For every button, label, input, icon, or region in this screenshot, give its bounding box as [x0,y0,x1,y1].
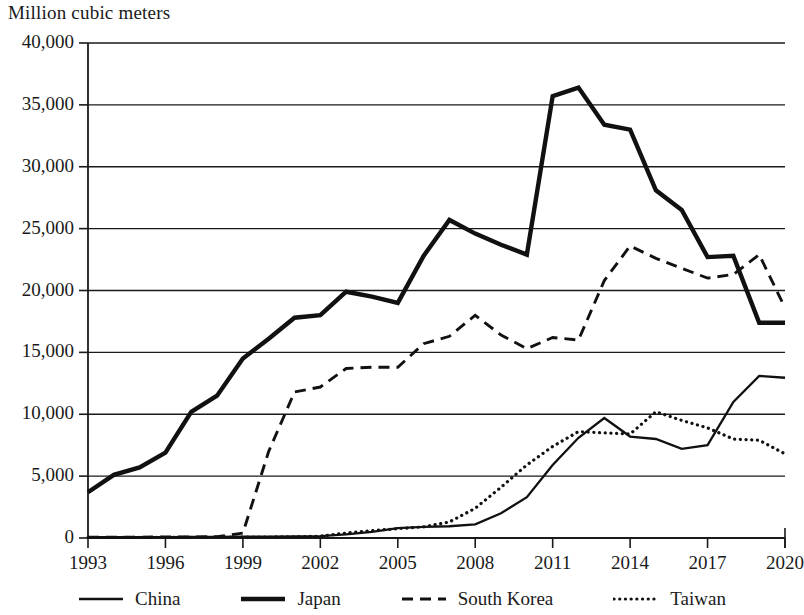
x-tick-label: 2017 [668,552,748,574]
chart-figure: Million cubic meters 40,00035,00030,0002… [0,0,804,615]
y-tick-label: 20,000 [22,279,74,301]
legend-label: China [135,588,180,610]
y-tick-label: 15,000 [22,340,74,362]
y-axis-ticks [79,43,88,538]
x-tick-label: 2011 [513,552,593,574]
data-series [88,88,785,538]
series-line-china [88,376,785,537]
y-tick-label: 0 [65,526,75,548]
series-line-south-korea [88,246,785,537]
y-tick-label: 40,000 [22,31,74,53]
y-tick-label: 35,000 [22,93,74,115]
gridlines [88,43,785,538]
series-line-taiwan [88,412,785,538]
legend-label: Taiwan [670,588,726,610]
legend-label: South Korea [458,588,554,610]
y-tick-label: 10,000 [22,402,74,424]
legend-label: Japan [297,588,340,610]
legend-swatch-solid-thick-icon [240,592,286,606]
legend-swatch-dashed-icon [401,592,447,606]
chart-legend: ChinaJapanSouth KoreaTaiwan [0,584,804,614]
legend-swatch-dotted-icon [613,592,659,606]
y-tick-label: 5,000 [31,464,74,486]
x-tick-label: 2002 [280,552,360,574]
y-tick-label: 30,000 [22,155,74,177]
legend-swatch-solid-thin-icon [78,592,124,606]
y-tick-label: 25,000 [22,217,74,239]
x-tick-label: 2020 [745,552,804,574]
x-tick-label: 1999 [203,552,283,574]
x-tick-label: 1996 [125,552,205,574]
legend-item-china: China [78,588,180,610]
legend-item-japan: Japan [240,588,340,610]
x-axis-ticks [88,538,785,548]
x-tick-label: 2014 [590,552,670,574]
x-tick-label: 2008 [435,552,515,574]
x-tick-label: 1993 [48,552,128,574]
x-tick-label: 2005 [358,552,438,574]
legend-item-taiwan: Taiwan [613,588,726,610]
legend-item-south-korea: South Korea [401,588,554,610]
chart-plot-area [0,0,804,615]
